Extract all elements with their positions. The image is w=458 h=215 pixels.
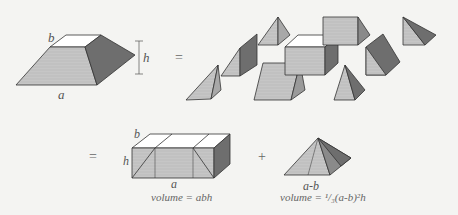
box-volume-formula: volume = abh (151, 192, 212, 203)
diagram-shapes (0, 0, 458, 215)
height-marker (135, 41, 143, 74)
plus-sign: + (258, 150, 266, 164)
piece-corner-pyramid-left (186, 65, 221, 100)
box-shape (132, 134, 230, 178)
box-label-length: a (171, 178, 177, 190)
piece-pyramid-front (334, 65, 365, 100)
piece-pyramid-back-left (258, 17, 290, 45)
piece-corner-pyramid-right (403, 17, 436, 45)
equals-sign-bottom: = (89, 150, 97, 164)
diagram-canvas: b h a = = + b h a volume = abh a-b volum… (0, 0, 458, 215)
frustum-label-top: b (48, 31, 55, 44)
piece-prism-back (323, 17, 370, 45)
pyramid-volume-formula: volume = ¹/₃(a-b)²h (280, 192, 366, 203)
piece-prism-right (366, 34, 400, 75)
frustum-label-height: h (143, 51, 150, 64)
box-label-height: h (123, 155, 129, 167)
pyramid-shape (284, 138, 351, 175)
box-label-depth: b (134, 128, 140, 140)
equals-sign-top: = (175, 51, 183, 65)
frustum-label-base: a (58, 88, 65, 101)
piece-prism-left (221, 34, 257, 76)
frustum-shape (16, 35, 135, 85)
